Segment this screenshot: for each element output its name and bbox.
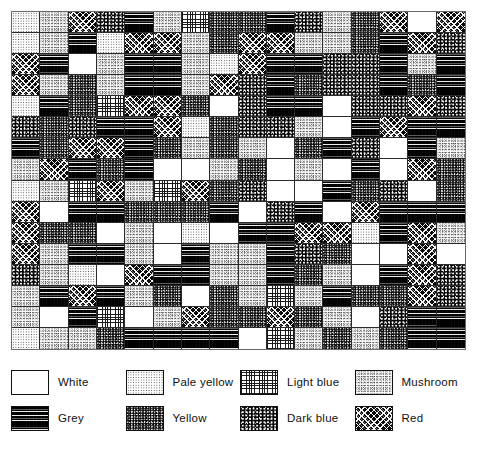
legend-item-white: White [11,364,126,400]
grid-cell [40,265,68,286]
grid-cell [40,117,68,138]
grid-cell [12,159,40,180]
grid-cell [12,138,40,159]
grid-cell [40,54,68,75]
grid-cell [352,12,380,33]
grid-cell [154,138,182,159]
legend-label-darkblue: Dark blue [287,412,338,424]
grid-cell [40,12,68,33]
grid-cell [437,54,465,75]
grid-cell [97,117,125,138]
grid-cell [69,75,97,96]
grid-cell [352,328,380,349]
grid-cell [182,202,210,223]
grid-cell [239,75,267,96]
grid-cell [97,307,125,328]
grid-cell [210,12,238,33]
legend-swatch-grey [11,406,49,431]
grid-cell [437,75,465,96]
pattern-grid [12,12,465,349]
grid-cell [408,265,436,286]
grid-cell [40,138,68,159]
grid-cell [323,138,351,159]
grid-cell [380,96,408,117]
grid-cell [125,12,153,33]
grid-cell [12,181,40,202]
grid-cell [97,286,125,307]
grid-cell [437,181,465,202]
legend-item-lightblue: Light blue [240,364,355,400]
legend-swatch-white [11,370,49,395]
grid-cell [323,307,351,328]
grid-cell [40,286,68,307]
grid-cell [239,307,267,328]
grid-cell [12,265,40,286]
grid-cell [295,12,323,33]
grid-cell [210,286,238,307]
grid-cell [12,75,40,96]
grid-cell [154,12,182,33]
grid-cell [295,159,323,180]
grid-cell [12,117,40,138]
grid-cell [125,117,153,138]
pattern-grid-container [11,11,466,350]
grid-cell [323,286,351,307]
grid-cell [380,75,408,96]
legend-label-mushroom: Mushroom [402,376,458,388]
grid-cell [182,159,210,180]
grid-cell [323,159,351,180]
grid-cell [352,159,380,180]
grid-cell [40,307,68,328]
grid-cell [154,223,182,244]
grid-cell [437,12,465,33]
grid-cell [40,33,68,54]
grid-cell [97,12,125,33]
grid-cell [267,54,295,75]
legend: WhitePale yellowLight blueMushroom GreyY… [11,364,469,436]
grid-cell [323,96,351,117]
grid-cell [352,75,380,96]
grid-cell [323,181,351,202]
grid-cell [352,33,380,54]
grid-cell [239,265,267,286]
grid-cell [437,265,465,286]
grid-cell [352,286,380,307]
grid-cell [380,223,408,244]
grid-cell [69,138,97,159]
grid-cell [323,328,351,349]
grid-cell [323,75,351,96]
grid-cell [154,307,182,328]
grid-cell [97,223,125,244]
grid-cell [97,33,125,54]
grid-cell [69,286,97,307]
grid-cell [182,117,210,138]
grid-cell [295,117,323,138]
grid-cell [295,33,323,54]
grid-cell [125,181,153,202]
legend-label-paleyellow: Pale yellow [173,376,234,388]
grid-cell [125,223,153,244]
grid-cell [437,96,465,117]
grid-cell [239,138,267,159]
grid-cell [69,265,97,286]
grid-cell [210,159,238,180]
grid-cell [125,33,153,54]
grid-cell [182,223,210,244]
legend-swatch-darkblue [240,406,278,431]
grid-cell [408,181,436,202]
grid-cell [125,244,153,265]
legend-swatch-lightblue [240,370,278,395]
grid-cell [267,96,295,117]
grid-cell [40,328,68,349]
grid-cell [352,265,380,286]
grid-cell [182,138,210,159]
grid-cell [154,265,182,286]
grid-cell [323,54,351,75]
grid-cell [437,328,465,349]
grid-cell [125,96,153,117]
grid-cell [239,54,267,75]
grid-cell [154,33,182,54]
grid-cell [125,328,153,349]
grid-cell [295,286,323,307]
grid-cell [380,54,408,75]
